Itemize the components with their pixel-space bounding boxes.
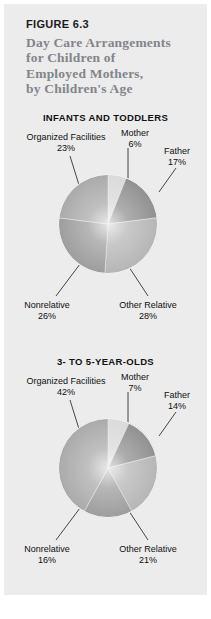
callout-other-relative: Other Relative 21% [108, 544, 188, 565]
figure-header: FIGURE 6.3 Day Care Arrangements for Chi… [26, 18, 198, 97]
callout-organized-facilities: Organized Facilities 42% [18, 376, 114, 397]
callout-value: 6% [110, 139, 160, 150]
callout-label: Other Relative [119, 544, 177, 554]
callout-value: 42% [18, 387, 114, 398]
pie-chart-3-to-5-year-olds: 3- TO 5-YEAR-OLDS [4, 356, 207, 594]
chart-heading: 3- TO 5-YEAR-OLDS [4, 356, 207, 367]
callout-value: 28% [108, 311, 188, 322]
callout-mother: Mother 7% [110, 372, 160, 393]
callout-value: 17% [154, 157, 200, 168]
callout-nonrelative: Nonrelative 16% [12, 544, 82, 565]
figure-title-line-2: for Children of [26, 50, 198, 65]
callout-father: Father 14% [154, 390, 200, 411]
callout-value: 21% [108, 555, 188, 566]
figure-panel: FIGURE 6.3 Day Care Arrangements for Chi… [4, 4, 207, 595]
callout-label: Organized Facilities [26, 132, 105, 142]
callout-value: 7% [110, 383, 160, 394]
callout-value: 23% [18, 143, 114, 154]
figure-title-line-1: Day Care Arrangements [26, 35, 198, 50]
callout-value: 14% [154, 401, 200, 412]
pie-graphic [58, 174, 158, 274]
callout-value: 26% [12, 311, 82, 322]
callout-value: 16% [12, 555, 82, 566]
pie-graphic [58, 418, 158, 518]
pie-chart-infants-and-toddlers: INFANTS AND TODDLERS [4, 112, 207, 350]
callout-label: Nonrelative [24, 544, 70, 554]
callout-label: Mother [121, 128, 149, 138]
callout-label: Other Relative [119, 300, 177, 310]
figure-title-line-3: Employed Mothers, [26, 66, 198, 81]
callout-label: Father [164, 390, 190, 400]
callout-label: Father [164, 146, 190, 156]
figure-number: FIGURE 6.3 [26, 18, 198, 30]
callout-label: Nonrelative [24, 300, 70, 310]
callout-nonrelative: Nonrelative 26% [12, 300, 82, 321]
pie-slices [58, 418, 158, 518]
figure-title: Day Care Arrangements for Children of Em… [26, 35, 198, 97]
callout-mother: Mother 6% [110, 128, 160, 149]
chart-heading: INFANTS AND TODDLERS [4, 112, 207, 123]
pie-slices [58, 174, 158, 274]
callout-label: Organized Facilities [26, 376, 105, 386]
callout-father: Father 17% [154, 146, 200, 167]
callout-label: Mother [121, 372, 149, 382]
callout-other-relative: Other Relative 28% [108, 300, 188, 321]
figure-title-line-4: by Children's Age [26, 81, 198, 96]
callout-organized-facilities: Organized Facilities 23% [18, 132, 114, 153]
